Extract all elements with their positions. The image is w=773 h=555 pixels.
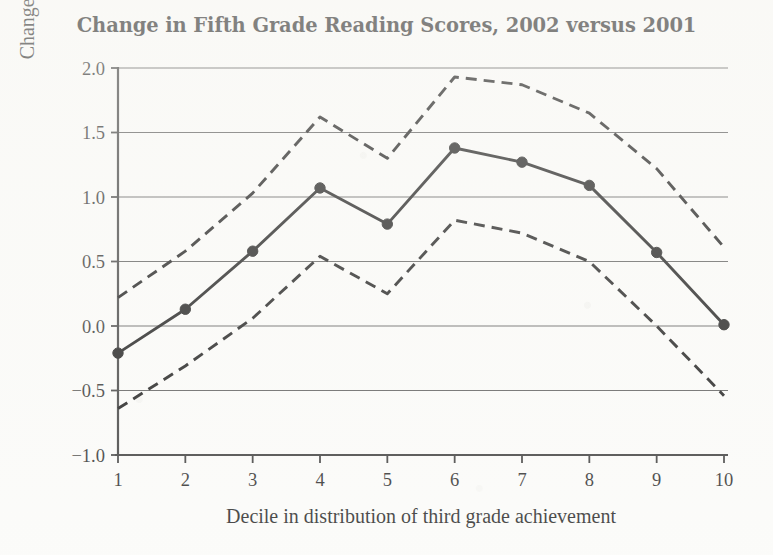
data-point-marker (382, 219, 392, 229)
chart-page: Change in Fifth Grade Reading Scores, 20… (0, 0, 773, 555)
x-tick-label: 1 (113, 470, 122, 490)
data-point-marker (113, 348, 123, 358)
x-tick-label: 7 (517, 470, 526, 490)
y-tick-label: 1.0 (82, 188, 105, 208)
y-tick-label: 1.5 (82, 123, 105, 143)
x-tick-label: 4 (315, 470, 324, 490)
data-point-marker (517, 157, 527, 167)
data-point-marker (584, 180, 594, 190)
x-tick-label: 6 (450, 470, 459, 490)
data-point-marker (247, 246, 257, 256)
y-tick-label: −0.5 (71, 381, 105, 401)
data-point-marker (651, 247, 661, 257)
y-tick-label: 0.5 (82, 252, 105, 272)
series-line-point-estimate (118, 148, 724, 353)
y-tick-labels-group: 2.01.51.00.50.0−0.5−1.0 (71, 59, 105, 466)
x-tick-label: 10 (715, 470, 734, 490)
x-tick-label: 3 (248, 470, 257, 490)
series-line-lower-confidence-bound (118, 220, 724, 408)
x-axis-label: Decile in distribution of third grade ac… (115, 505, 727, 528)
chart-plot-area: 2.01.51.00.50.0−0.5−1.0 12345678910 (0, 0, 773, 555)
data-point-marker (180, 304, 190, 314)
y-tick-label: −1.0 (71, 446, 105, 466)
data-point-marker (449, 143, 459, 153)
data-series-group (118, 77, 724, 409)
axes-group (111, 67, 728, 463)
x-tick-label: 5 (383, 470, 392, 490)
x-tick-labels-group: 12345678910 (113, 470, 733, 490)
data-point-marker (315, 183, 325, 193)
x-tick-label: 9 (652, 470, 661, 490)
data-point-marker (719, 320, 729, 330)
x-tick-label: 2 (181, 470, 190, 490)
x-tick-label: 8 (585, 470, 594, 490)
y-tick-label: 0.0 (82, 317, 105, 337)
y-tick-label: 2.0 (82, 59, 105, 79)
